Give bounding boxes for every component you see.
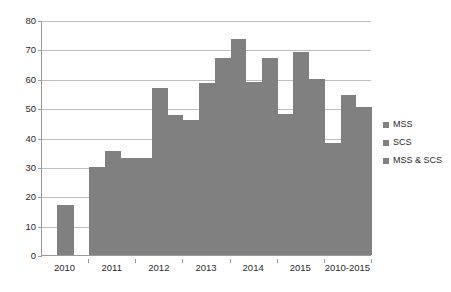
x-tick-label-2015: 2015	[277, 263, 324, 273]
bar-group	[42, 21, 89, 255]
y-tick-mark-0	[38, 256, 42, 257]
bar-group	[278, 21, 325, 255]
y-tick-label-20: 20	[6, 192, 36, 202]
y-tick-label-0: 0	[6, 251, 36, 261]
x-tick-label-2010: 2010	[41, 263, 88, 273]
legend-item[interactable]: MSS & SCS	[383, 156, 451, 165]
bar	[89, 167, 105, 255]
bar-group	[183, 21, 230, 255]
x-tick-label-2014: 2014	[230, 263, 277, 273]
bar	[168, 115, 184, 255]
bar	[356, 107, 372, 255]
bar	[183, 120, 199, 255]
y-axis-labels: 01020304050607080	[0, 21, 36, 256]
bar	[341, 95, 357, 255]
x-tick-label-2013: 2013	[182, 263, 229, 273]
y-tick-label-70: 70	[6, 45, 36, 55]
legend-item[interactable]: SCS	[383, 138, 451, 147]
bar	[325, 143, 341, 255]
y-tick-label-40: 40	[6, 134, 36, 144]
bar-group	[231, 21, 278, 255]
legend-swatch-icon	[383, 140, 389, 146]
x-tick-label-2010-2015: 2010-2015	[324, 263, 371, 273]
y-tick-label-30: 30	[6, 163, 36, 173]
y-tick-label-50: 50	[6, 104, 36, 114]
bar	[293, 52, 309, 255]
bar	[152, 88, 168, 255]
y-tick-label-80: 80	[6, 16, 36, 26]
legend-swatch-icon	[383, 122, 389, 128]
legend-item-label: MSS	[393, 120, 413, 129]
y-tick-label-10: 10	[6, 222, 36, 232]
bar	[105, 151, 121, 255]
bars-layer	[42, 21, 371, 255]
legend-item[interactable]: MSS	[383, 120, 451, 129]
bar-group	[89, 21, 136, 255]
bar	[309, 79, 325, 255]
chart-legend: MSSSCSMSS & SCS	[383, 120, 451, 174]
bar	[215, 58, 231, 255]
x-tick-label-2011: 2011	[88, 263, 135, 273]
bar-chart: 01020304050607080 2010201120122013201420…	[0, 0, 451, 292]
bar	[231, 39, 247, 255]
plot-area	[41, 21, 371, 256]
bar	[57, 205, 74, 255]
legend-item-label: SCS	[393, 138, 412, 147]
legend-swatch-icon	[383, 158, 389, 164]
bar	[136, 158, 152, 255]
bar-group	[136, 21, 183, 255]
bar	[262, 58, 278, 255]
bar-group	[325, 21, 372, 255]
bar	[246, 82, 262, 255]
bar	[121, 158, 137, 255]
bar	[199, 83, 215, 255]
x-tick-label-2012: 2012	[135, 263, 182, 273]
x-axis-labels: 2010201120122013201420152010-2015	[41, 259, 371, 279]
legend-item-label: MSS & SCS	[393, 156, 442, 165]
bar	[278, 114, 294, 255]
x-tick-mark	[371, 259, 372, 263]
y-tick-label-60: 60	[6, 75, 36, 85]
